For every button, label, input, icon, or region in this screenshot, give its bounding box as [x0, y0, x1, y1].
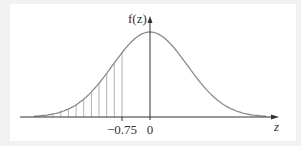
tick-label-neg: −0.75 — [107, 122, 137, 137]
y-axis-arrow-icon — [148, 16, 153, 23]
shaded-region — [38, 53, 122, 117]
y-axis-label: f(z) — [128, 11, 147, 26]
tick-label-zero: 0 — [147, 122, 154, 137]
x-axis-label: z — [273, 119, 279, 134]
normal-curve-chart: f(z) z −0.75 0 — [0, 0, 301, 146]
